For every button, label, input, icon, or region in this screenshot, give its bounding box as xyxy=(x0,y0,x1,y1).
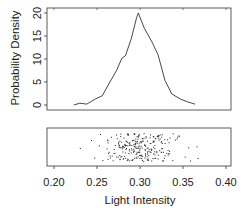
strip-point xyxy=(142,160,143,161)
strip-point xyxy=(137,152,138,153)
strip-point xyxy=(157,136,158,137)
strip-point xyxy=(185,157,186,158)
strip-point xyxy=(118,142,119,143)
strip-point xyxy=(163,160,164,161)
strip-point xyxy=(110,156,111,157)
strip-point xyxy=(141,141,142,142)
y-tick-label: 15 xyxy=(31,30,43,42)
strip-point xyxy=(135,144,136,145)
strip-point xyxy=(153,142,154,143)
strip-point xyxy=(117,138,118,139)
strip-point xyxy=(141,142,142,143)
strip-point xyxy=(99,145,100,146)
strip-point xyxy=(130,145,131,146)
strip-point xyxy=(161,141,162,142)
strip-point xyxy=(136,147,137,148)
x-tick-label: 0.35 xyxy=(172,176,193,188)
strip-point xyxy=(145,146,146,147)
strip-point xyxy=(122,149,123,150)
strip-point xyxy=(137,136,138,137)
strip-point xyxy=(153,153,154,154)
strip-point xyxy=(119,155,120,156)
strip-point xyxy=(148,159,149,160)
strip-point xyxy=(122,152,123,153)
strip-point xyxy=(129,142,130,143)
strip-point xyxy=(107,149,108,150)
strip-point xyxy=(142,141,143,142)
y-tick-label: 0 xyxy=(31,102,43,108)
strip-point xyxy=(127,160,128,161)
strip-point xyxy=(133,145,134,146)
strip-point xyxy=(118,143,119,144)
strip-points xyxy=(80,133,199,162)
strip-point xyxy=(138,135,139,136)
strip-point xyxy=(119,147,120,148)
strip-point xyxy=(128,153,129,154)
strip-point xyxy=(188,147,189,148)
strip-point xyxy=(153,136,154,137)
strip-point xyxy=(119,141,120,142)
strip-point xyxy=(108,159,109,160)
strip-point xyxy=(148,148,149,149)
strip-point xyxy=(127,133,128,134)
strip-point xyxy=(156,152,157,153)
strip-point xyxy=(138,136,139,137)
strip-point xyxy=(140,148,141,149)
y-tick-label: 20 xyxy=(31,7,43,19)
strip-point xyxy=(147,159,148,160)
strip-point xyxy=(121,157,122,158)
strip-point xyxy=(129,151,130,152)
strip-point xyxy=(133,151,134,152)
strip-point xyxy=(146,136,147,137)
strip-point xyxy=(108,153,109,154)
strip-point xyxy=(175,140,176,141)
strip-point xyxy=(118,157,119,158)
strip-point xyxy=(147,154,148,155)
strip-point xyxy=(138,137,139,138)
strip-point xyxy=(177,137,178,138)
strip-point xyxy=(142,138,143,139)
strip-point xyxy=(124,145,125,146)
strip-point xyxy=(109,152,110,153)
x-axis: 0.200.250.300.350.40 xyxy=(43,8,236,188)
strip-point xyxy=(169,153,170,154)
strip-point xyxy=(126,148,127,149)
strip-point xyxy=(158,135,159,136)
strip-point xyxy=(124,144,125,145)
strip-point xyxy=(179,136,180,137)
strip-point xyxy=(102,160,103,161)
strip-point xyxy=(140,141,141,142)
x-tick-label: 0.40 xyxy=(215,176,236,188)
strip-point xyxy=(143,161,144,162)
strip-point xyxy=(169,142,170,143)
strip-point xyxy=(153,158,154,159)
strip-point xyxy=(134,151,135,152)
strip-point xyxy=(138,146,139,147)
strip-point xyxy=(147,156,148,157)
strip-point xyxy=(142,148,143,149)
y-tick-label: 10 xyxy=(31,53,43,65)
strip-point xyxy=(138,156,139,157)
strip-point xyxy=(166,153,167,154)
strip-point xyxy=(107,140,108,141)
strip-point xyxy=(116,157,117,158)
strip-point xyxy=(120,134,121,135)
strip-point xyxy=(168,155,169,156)
strip-point xyxy=(131,148,132,149)
strip-point xyxy=(114,149,115,150)
strip-point xyxy=(80,148,81,149)
x-tick-label: 0.30 xyxy=(129,176,150,188)
strip-point xyxy=(94,158,95,159)
strip-point xyxy=(136,148,137,149)
strip-point xyxy=(127,142,128,143)
strip-point xyxy=(138,148,139,149)
strip-point xyxy=(129,143,130,144)
strip-point xyxy=(145,154,146,155)
strip-point xyxy=(100,134,101,135)
strip-point xyxy=(136,153,137,154)
strip-point xyxy=(169,151,170,152)
strip-point xyxy=(113,160,114,161)
strip-point xyxy=(125,158,126,159)
strip-point xyxy=(154,151,155,152)
strip-point xyxy=(129,160,130,161)
